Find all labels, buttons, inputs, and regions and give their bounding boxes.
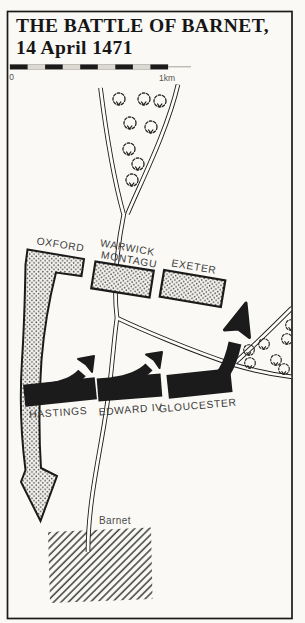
map-title-line1: THE BATTLE OF BARNET, — [16, 15, 276, 37]
tree-icon — [154, 95, 166, 107]
map-title-line2: 14 April 1471 — [16, 37, 276, 59]
tree-icon — [138, 93, 150, 105]
tree-icon — [123, 143, 135, 155]
tree-icon — [113, 93, 125, 105]
tree-icon — [145, 121, 157, 133]
tree-icon — [245, 358, 256, 369]
unit-label-oxford: OXFORD — [36, 235, 85, 253]
tree-icon — [132, 158, 144, 170]
tree-icon — [124, 117, 136, 129]
road-interiors — [88, 85, 293, 553]
scale-zero-label: 0 — [9, 72, 14, 82]
town-label-barnet: Barnet — [99, 515, 131, 526]
tree-icon — [126, 174, 138, 186]
tree-icon — [279, 364, 290, 375]
map-title: THE BATTLE OF BARNET, 14 April 1471 — [16, 15, 276, 58]
tree-icon — [286, 320, 297, 331]
map-svg: 0 1km — [0, 0, 305, 623]
battle-map-page: 0 1km — [0, 0, 305, 623]
scale-end-label: 1km — [159, 73, 175, 83]
unit-label-gloucester: GLOUCESTER — [158, 397, 237, 415]
map-border — [8, 12, 293, 619]
barnet-town-hatch — [48, 528, 153, 604]
tree-icon — [271, 355, 282, 366]
tree-icon — [259, 339, 270, 350]
tree-icon — [282, 334, 293, 345]
scale-bar: 0 1km — [9, 65, 191, 83]
